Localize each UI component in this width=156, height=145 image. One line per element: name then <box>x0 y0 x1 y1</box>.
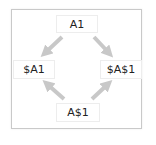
node-dollar-a1: $A1 <box>13 60 55 79</box>
node-label: $A1 <box>23 63 45 76</box>
node-label: $A$1 <box>107 63 136 76</box>
node-dollar-a-dollar-1: $A$1 <box>100 60 142 79</box>
node-a1: A1 <box>56 15 98 33</box>
node-label: A$1 <box>67 106 89 119</box>
node-label: A1 <box>70 18 85 31</box>
node-a-dollar-1: A$1 <box>56 103 100 122</box>
